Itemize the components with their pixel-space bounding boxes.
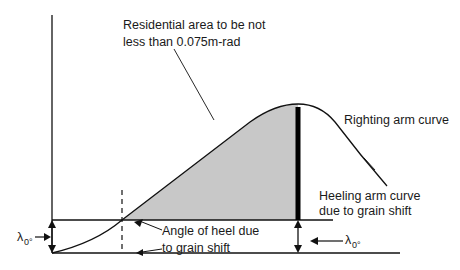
left-lambda-symbol: λ xyxy=(17,230,24,244)
arrowhead-up-icon xyxy=(48,220,56,228)
arrowhead-right-icon xyxy=(44,233,51,241)
arrowhead-icon xyxy=(136,249,143,256)
right-lambda-subscript: 0° xyxy=(352,240,361,250)
heeling-arm-leader xyxy=(364,158,375,170)
arrowhead-up-icon xyxy=(294,220,302,228)
stability-diagram: Residential area to be not less than 0.0… xyxy=(0,0,460,270)
arrowhead-left-icon xyxy=(310,237,318,245)
residual-area-leader xyxy=(174,49,214,120)
right-lambda-symbol: λ xyxy=(345,233,352,247)
angle-pointer-upper xyxy=(142,222,162,230)
angle-of-heel-label-2: to grain shift xyxy=(162,241,231,255)
residual-area-label-1: Residential area to be not xyxy=(123,18,266,32)
residual-area xyxy=(122,104,298,220)
heeling-arm-label-1: Heeling arm curve xyxy=(319,189,420,203)
angle-pointer-lower xyxy=(142,249,162,252)
residual-area-label-2: less than 0.075m-rad xyxy=(123,35,240,49)
arrowhead-down-icon xyxy=(294,245,302,253)
angle-of-heel-label-1: Angle of heel due xyxy=(162,224,259,238)
heeling-arm-label-2: due to grain shift xyxy=(319,204,412,218)
righting-arm-label: Righting arm curve xyxy=(344,113,449,127)
left-lambda-subscript: 0° xyxy=(24,237,33,247)
